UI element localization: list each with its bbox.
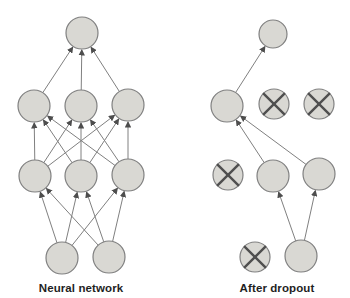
network-diagram-canvas [0,0,350,298]
neuron-node [259,20,287,48]
neuron-node [285,240,317,272]
connection-arrow [241,116,306,164]
edges-layer [34,47,315,246]
neuron-node [257,160,289,192]
caption-neural-network: Neural network [39,282,123,294]
neuron-node [66,17,98,49]
neuron-node [303,158,335,190]
neuron-node [65,160,97,192]
connection-arrow [66,193,78,243]
connection-arrow [304,191,315,241]
connection-arrow [236,47,265,93]
neuron-node [46,242,78,274]
dropout-figure: Neural network After dropout [0,0,350,298]
nodes-layer [18,17,335,274]
connection-arrow [81,50,82,90]
caption-after-dropout: After dropout [240,282,315,294]
connection-arrow [40,192,57,243]
neuron-node [65,90,97,122]
connection-arrow [87,192,104,242]
connection-arrow [279,192,296,241]
connection-arrow [46,189,98,246]
neuron-node [112,159,144,191]
connection-arrow [113,192,125,242]
connection-arrow [43,47,73,92]
connection-arrow [91,47,119,91]
connection-arrow [236,120,264,162]
neuron-node [93,241,125,273]
connection-arrow [34,123,35,160]
neuron-node [211,90,243,122]
neuron-node [18,90,50,122]
neuron-node [19,160,51,192]
neuron-node [112,89,144,121]
